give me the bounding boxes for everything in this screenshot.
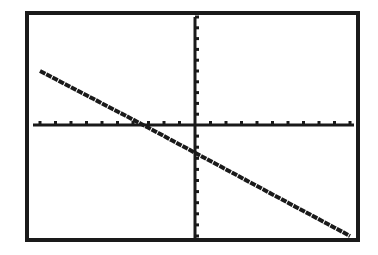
graph-screen (0, 0, 378, 255)
